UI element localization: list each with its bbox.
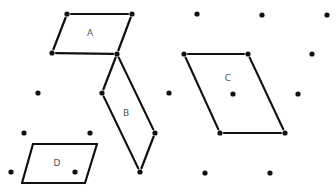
- lattice-diagram: A B C D: [0, 0, 336, 192]
- shape-c-edge: [250, 58, 284, 130]
- lattice-point: [72, 169, 77, 174]
- lattice-point: [324, 12, 329, 17]
- shape-c-edge: [186, 58, 219, 130]
- lattice-point: [166, 90, 171, 95]
- lattice-point: [202, 170, 207, 175]
- shape-label-d: D: [54, 158, 61, 168]
- shape-label-a: A: [87, 28, 94, 38]
- diagram-canvas: A B C D: [0, 0, 336, 192]
- lattice-point: [64, 11, 69, 16]
- shape-label-b: B: [123, 108, 129, 118]
- shape-a-edge: [118, 18, 130, 51]
- lattice-point: [21, 130, 26, 135]
- lattice-point: [181, 51, 186, 56]
- lattice-point: [99, 90, 104, 95]
- lattice-point: [267, 170, 272, 175]
- lattice-points: [8, 11, 329, 175]
- lattice-point: [245, 51, 250, 56]
- lattice-point: [282, 130, 287, 135]
- lattice-point: [295, 91, 300, 96]
- lattice-point: [114, 51, 119, 56]
- shape-d-edge: [22, 144, 33, 183]
- lattice-point: [49, 50, 54, 55]
- lattice-point: [35, 90, 40, 95]
- shape-d-edge: [85, 144, 97, 183]
- parallelogram-edges: [22, 14, 283, 183]
- shape-label-c: C: [225, 73, 231, 83]
- lattice-point: [259, 12, 264, 17]
- shape-b-edge: [103, 58, 115, 90]
- lattice-point: [309, 51, 314, 56]
- shape-b-edge: [104, 97, 139, 169]
- lattice-point: [8, 169, 13, 174]
- shape-a-edge: [56, 53, 113, 54]
- lattice-point: [129, 11, 134, 16]
- shape-b-edge: [141, 137, 153, 169]
- lattice-point: [87, 130, 92, 135]
- lattice-point: [217, 130, 222, 135]
- shape-b-edge: [119, 58, 154, 130]
- lattice-point: [137, 169, 142, 174]
- lattice-point: [194, 11, 199, 16]
- lattice-point: [230, 91, 235, 96]
- lattice-point: [152, 130, 157, 135]
- shape-a-edge: [53, 18, 65, 50]
